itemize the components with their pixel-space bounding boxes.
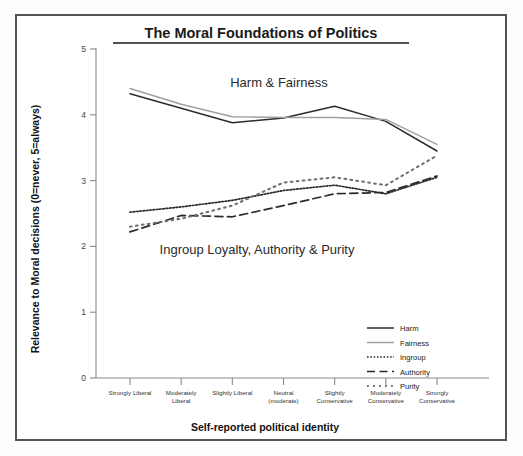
upper-group-annotation: Harm & Fairness (230, 75, 328, 90)
x-tick-label: Moderately (166, 389, 198, 396)
x-tick-label: Slightly Liberal (212, 389, 252, 396)
legend-label-harm: Harm (400, 324, 419, 333)
legend-label-fairness: Fairness (400, 339, 429, 348)
x-tick-label: Liberal (172, 397, 191, 404)
x-tick-label: Slightly (325, 389, 346, 396)
y-tick-label: 3 (81, 176, 86, 186)
legend: HarmFairnessIngroupAuthorityPurity (367, 324, 430, 391)
lower-group-annotation: Ingroup Loyalty, Authority & Purity (160, 242, 355, 257)
x-axis-label: Self-reported political identity (191, 421, 339, 433)
y-tick-group: 012345 (81, 44, 96, 383)
legend-label-ingroup: Ingroup (400, 353, 426, 362)
y-tick-label: 5 (81, 44, 86, 54)
series-group (130, 88, 437, 231)
x-tick-label: Neutral (274, 389, 294, 396)
chart-title: The Moral Foundations of Politics (145, 25, 378, 41)
y-tick-label: 0 (81, 373, 86, 383)
x-tick-label: Conservative (419, 397, 456, 404)
y-tick-label: 4 (81, 110, 86, 120)
y-axis-label: Relevance to Moral decisions (0=never, 5… (29, 105, 41, 354)
series-line-authority (130, 176, 437, 232)
figure-container: The Moral Foundations of Politics Releva… (0, 0, 523, 456)
x-tick-label: Strongly (426, 389, 450, 396)
legend-label-authority: Authority (400, 368, 430, 377)
x-tick-label: Strongly Liberal (109, 389, 152, 396)
x-tick-label: (moderate) (268, 397, 298, 404)
series-line-fairness (130, 88, 437, 144)
x-tick-label: Conservative (368, 397, 405, 404)
x-tick-label: Moderately (371, 389, 403, 396)
y-tick-label: 2 (81, 241, 86, 251)
chart-svg: The Moral Foundations of Politics Releva… (17, 16, 505, 439)
figure-frame: The Moral Foundations of Politics Releva… (15, 14, 507, 441)
legend-label-purity: Purity (400, 382, 420, 391)
y-tick-label: 1 (81, 307, 86, 317)
x-tick-label: Conservative (317, 397, 354, 404)
